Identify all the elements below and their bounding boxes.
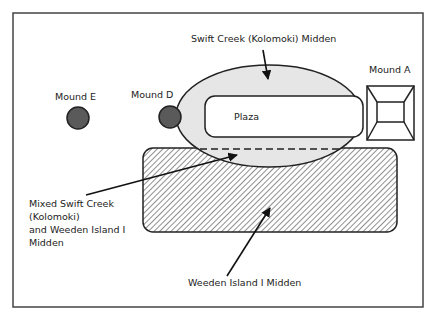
mixed-midden-label-line-3: and Weeden Island I [29, 223, 125, 236]
mound-e-marker [67, 107, 89, 129]
plaza-area [205, 96, 363, 137]
mound-a-label: Mound A [369, 63, 411, 76]
plaza-label: Plaza [234, 110, 259, 123]
mixed-midden-label-line-2: (Kolomoki) [29, 210, 125, 223]
mound-d-marker [159, 106, 181, 128]
mound-e-label: Mound E [55, 90, 96, 103]
mixed-midden-label-line-4: Midden [29, 236, 125, 249]
mound-a-marker [367, 86, 414, 140]
swift-creek-midden-label: Swift Creek (Kolomoki) Midden [191, 32, 336, 45]
mound-d-label: Mound D [131, 88, 173, 101]
mixed-midden-label: Mixed Swift Creek (Kolomoki) and Weeden … [29, 197, 125, 249]
mixed-midden-label-line-1: Mixed Swift Creek [29, 197, 125, 210]
weeden-midden-label: Weeden Island I Midden [188, 276, 301, 289]
site-map-diagram [0, 0, 441, 317]
